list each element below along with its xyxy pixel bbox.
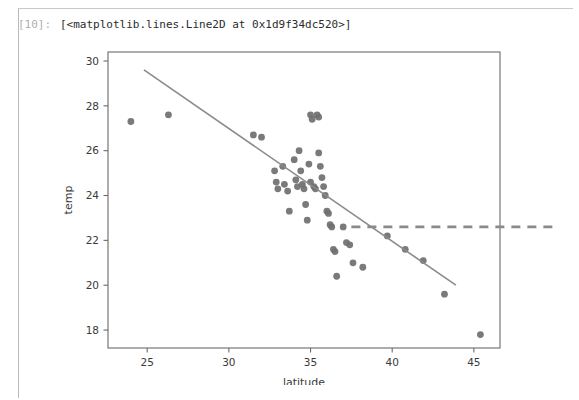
data-point — [340, 224, 347, 231]
data-point — [315, 150, 322, 157]
data-point — [477, 331, 484, 338]
x-tick-label: 45 — [467, 356, 480, 368]
data-point — [441, 291, 448, 298]
data-point — [292, 176, 299, 183]
data-point — [319, 174, 326, 181]
scatter-plot-svg: 253035404518202224262830latitudetemp — [18, 40, 579, 385]
x-tick-label: 35 — [304, 356, 317, 368]
cell-top-border — [18, 8, 573, 9]
data-point — [274, 185, 281, 192]
data-point — [165, 111, 172, 118]
y-tick-label: 20 — [86, 279, 99, 291]
data-point — [325, 210, 332, 217]
data-point — [304, 217, 311, 224]
y-tick-label: 24 — [86, 189, 100, 201]
data-point — [350, 259, 357, 266]
data-point — [291, 156, 298, 163]
data-point — [302, 201, 309, 208]
notebook-output-cell: [10]: [<matplotlib.lines.Line2D at 0x1d9… — [0, 0, 579, 400]
data-point — [297, 167, 304, 174]
data-point — [281, 181, 288, 188]
data-point — [258, 134, 265, 141]
x-axis-label: latitude — [283, 376, 325, 385]
scatter-series — [127, 111, 483, 338]
data-point — [333, 273, 340, 280]
y-tick-label: 28 — [86, 100, 99, 112]
data-point — [286, 208, 293, 215]
data-point — [328, 224, 335, 231]
data-point — [332, 248, 339, 255]
y-axis-label: temp — [62, 186, 75, 215]
x-tick-label: 40 — [386, 356, 399, 368]
data-point — [127, 118, 134, 125]
y-tick-label: 30 — [86, 55, 99, 67]
data-point — [317, 163, 324, 170]
y-tick-label: 26 — [86, 144, 100, 156]
data-point — [320, 183, 327, 190]
y-tick-label: 22 — [86, 234, 99, 246]
data-point — [284, 188, 291, 195]
data-point — [273, 179, 280, 186]
y-tick-label: 18 — [86, 324, 99, 336]
axes-frame — [108, 52, 500, 348]
matplotlib-figure: 253035404518202224262830latitudetemp — [18, 40, 579, 385]
data-point — [296, 147, 303, 154]
data-point — [306, 161, 313, 168]
data-point — [315, 114, 322, 121]
x-tick-label: 25 — [141, 356, 154, 368]
regression-line — [144, 70, 456, 285]
data-point — [301, 185, 308, 192]
data-point — [271, 167, 278, 174]
x-tick-label: 30 — [222, 356, 235, 368]
data-point — [346, 241, 353, 248]
data-point — [359, 264, 366, 271]
output-repr-text: [<matplotlib.lines.Line2D at 0x1d9f34dc5… — [60, 18, 351, 31]
output-prompt-label: [10]: — [18, 18, 51, 31]
data-point — [250, 132, 257, 139]
